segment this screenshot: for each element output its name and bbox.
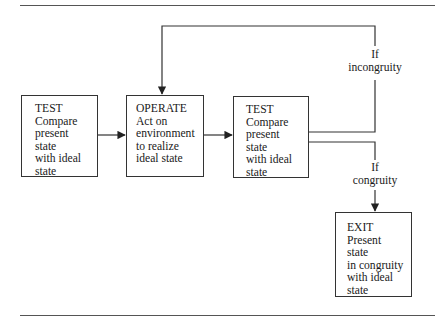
operate-line: ideal state bbox=[136, 153, 195, 166]
test1-title: TEST bbox=[35, 103, 81, 116]
arrow-incongruity-loop-top bbox=[162, 26, 375, 94]
test2-line: present bbox=[246, 129, 292, 142]
test1-line: state bbox=[35, 166, 81, 179]
test2-title: TEST bbox=[246, 104, 292, 117]
incongruity-label: If incongruity bbox=[345, 49, 405, 74]
congruity-label-text: congruity bbox=[345, 175, 405, 188]
test-box-2: TEST Compare present state with ideal st… bbox=[233, 96, 309, 178]
congruity-label: If congruity bbox=[345, 162, 405, 187]
exit-line: state bbox=[347, 247, 403, 260]
incongruity-label-if: If bbox=[345, 49, 405, 62]
operate-line: environment bbox=[136, 128, 195, 141]
exit-line: state bbox=[347, 285, 403, 298]
arrow-congruity-path bbox=[308, 142, 375, 160]
operate-title: OPERATE bbox=[136, 103, 195, 116]
exit-title: EXIT bbox=[347, 222, 403, 235]
test1-line: present bbox=[35, 128, 81, 141]
incongruity-label-text: incongruity bbox=[345, 62, 405, 75]
arrow-incongruity-loop bbox=[308, 80, 375, 132]
exit-box: EXIT Present state in congruity with ide… bbox=[335, 212, 412, 297]
test2-line: state bbox=[246, 167, 292, 180]
operate-box: OPERATE Act on environment to realize id… bbox=[126, 95, 204, 177]
test-box-1: TEST Compare present state with ideal st… bbox=[21, 95, 98, 177]
congruity-label-if: If bbox=[345, 162, 405, 175]
